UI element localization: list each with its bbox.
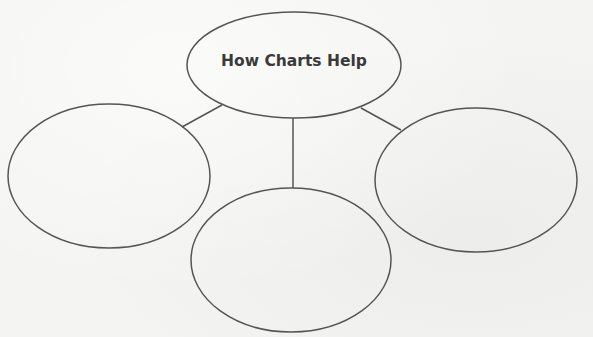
connector-left [182, 105, 222, 127]
graphic-organizer: How Charts Help [0, 0, 593, 337]
center-node-title: How Charts Help [187, 52, 401, 70]
branch-oval-bottom[interactable] [191, 188, 391, 332]
branch-oval-right[interactable] [375, 108, 577, 252]
organizer-shapes [0, 0, 593, 337]
branch-oval-left[interactable] [8, 104, 210, 248]
connector-right [361, 108, 401, 130]
